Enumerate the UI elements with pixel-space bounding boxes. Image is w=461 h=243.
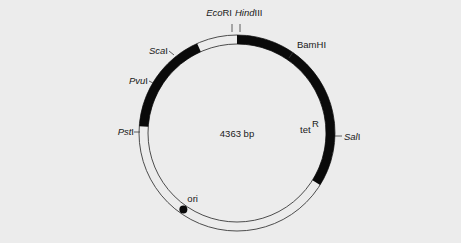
plasmid-size-label: 4363 bp bbox=[220, 128, 254, 139]
site-label-psti: PstI bbox=[118, 126, 134, 137]
site-label-scai: ScaI bbox=[149, 45, 168, 56]
site-label-pvui: PvuI bbox=[129, 75, 148, 86]
ori-label: ori bbox=[187, 193, 198, 204]
plasmid-map: EcoRIHindIIIBamHISalIPstIPvuIScaI 4363 b… bbox=[0, 0, 461, 243]
tet-gene-label: tetR bbox=[300, 118, 319, 135]
site-label-sali: SalI bbox=[344, 131, 360, 142]
ori-dot bbox=[179, 206, 187, 214]
tet-label-text: tet bbox=[300, 124, 311, 135]
site-tick-scai bbox=[169, 51, 174, 55]
gene-bands bbox=[139, 35, 335, 185]
site-label-bamhi: BamHI bbox=[297, 39, 326, 50]
site-label-hindiii: HindIII bbox=[235, 7, 262, 18]
restriction-sites: EcoRIHindIIIBamHISalIPstIPvuIScaI bbox=[118, 7, 361, 142]
tetR-gene-band bbox=[237, 35, 335, 185]
site-label-ecori: EcoRI bbox=[206, 7, 232, 18]
tet-superscript: R bbox=[312, 118, 319, 129]
site-tick-pvui bbox=[149, 81, 153, 83]
